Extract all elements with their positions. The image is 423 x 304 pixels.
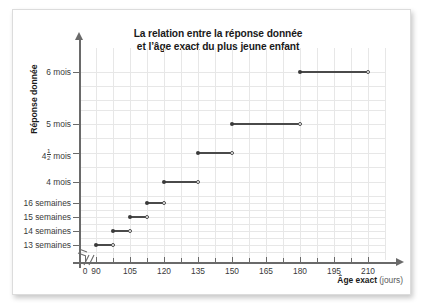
y-axis-tick-label: 14 semaines (12, 226, 71, 236)
x-axis-minor-tick (113, 258, 114, 262)
gridline-horizontal (79, 224, 385, 225)
step-segment (198, 152, 232, 154)
y-axis-tick (73, 217, 79, 218)
x-axis-tick-label: 210 (348, 266, 388, 276)
x-axis-minor-tick (181, 258, 182, 262)
x-axis-minor-tick (351, 258, 352, 262)
gridline-horizontal (79, 196, 385, 197)
x-axis-minor-tick (147, 258, 148, 262)
y-axis-tick (73, 124, 79, 125)
gridline-vertical (351, 48, 352, 260)
y-axis-tick-label: 16 semaines (12, 198, 71, 208)
y-axis-tick (73, 72, 79, 73)
x-axis-line (73, 262, 398, 264)
step-segment (300, 71, 368, 73)
gridline-vertical (147, 48, 148, 260)
y-axis-tick-label: 13 semaines (12, 240, 71, 250)
x-axis-tick (85, 256, 86, 264)
gridline-horizontal (79, 210, 385, 211)
gridline-vertical (317, 48, 318, 260)
gridline-horizontal (79, 167, 385, 168)
gridline-horizontal (79, 100, 385, 101)
gridline-horizontal (79, 217, 385, 218)
gridline-vertical (368, 48, 369, 260)
gridline-vertical (215, 48, 216, 260)
gridline-horizontal (79, 182, 385, 183)
gridline-vertical (96, 48, 97, 260)
y-axis-tick (73, 153, 79, 154)
x-axis-tick (368, 257, 369, 263)
y-axis-tick-label: 412 mois (12, 148, 71, 162)
chart-figure: La relation entre la réponse donnée et l… (12, 9, 411, 295)
x-axis-tick (164, 257, 165, 263)
y-axis-tick (73, 182, 79, 183)
gridline-vertical (164, 48, 165, 260)
gridline-vertical (266, 48, 267, 260)
x-axis-minor-tick (215, 258, 216, 262)
y-axis-tick-label: 4 mois (12, 177, 71, 187)
gridline-horizontal (79, 203, 385, 204)
x-axis-minor-tick (249, 258, 250, 262)
x-axis-tick (130, 257, 131, 263)
x-axis-tick (334, 257, 335, 263)
gridline-vertical (385, 48, 386, 260)
gridline-horizontal (79, 238, 385, 239)
x-axis-minor-tick (283, 258, 284, 262)
gridline-vertical (249, 48, 250, 260)
gridline-horizontal (79, 86, 385, 87)
gridline-horizontal (79, 110, 385, 111)
gridline-vertical (334, 48, 335, 260)
axis-break-icon (75, 245, 103, 267)
y-axis-tick-label: 15 semaines (12, 212, 71, 222)
gridline-vertical (283, 48, 284, 260)
x-axis-tick (96, 257, 97, 263)
y-axis-tick (73, 245, 79, 246)
x-axis-title-unit: (jours) (379, 275, 403, 285)
gridline-horizontal (79, 245, 385, 246)
step-segment (232, 123, 300, 125)
x-axis-title-main: Âge exact (337, 275, 377, 285)
gridline-vertical (181, 48, 182, 260)
y-axis-arrow-icon (75, 32, 83, 40)
x-axis-minor-tick (317, 258, 318, 262)
chart-title-line-1: La relation entre la réponse donnée (83, 28, 353, 41)
x-axis-title: Âge exact (jours) (223, 275, 403, 285)
x-axis-tick (198, 257, 199, 263)
y-axis-tick-label: 6 mois (12, 67, 71, 77)
y-axis-line (79, 38, 81, 268)
x-axis-tick (266, 257, 267, 263)
y-axis-tick (73, 231, 79, 232)
x-axis-tick (232, 257, 233, 263)
x-axis-arrow-icon (396, 258, 404, 266)
step-segment (164, 181, 198, 183)
y-axis-tick-label: 5 mois (12, 119, 71, 129)
gridline-horizontal (79, 138, 385, 139)
gridline-horizontal (79, 252, 385, 253)
gridline-vertical (300, 48, 301, 260)
y-axis-tick (73, 203, 79, 204)
x-axis-tick (300, 257, 301, 263)
